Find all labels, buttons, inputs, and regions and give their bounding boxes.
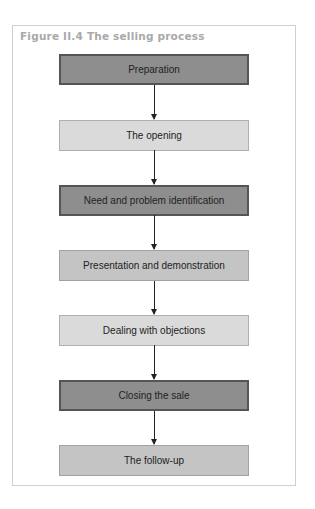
step-label: The opening [126,130,182,141]
step-label: Closing the sale [118,390,189,401]
step-closing: Closing the sale [59,380,249,411]
step-follow-up: The follow-up [59,445,249,476]
step-opening: The opening [59,120,249,151]
step-label: Presentation and demonstration [83,260,225,271]
step-need-identification: Need and problem identification [59,185,249,216]
figure-title: Figure II.4 The selling process [20,30,205,42]
step-objections: Dealing with objections [59,315,249,346]
step-presentation: Presentation and demonstration [59,250,249,281]
step-label: Dealing with objections [103,325,205,336]
step-label: The follow-up [124,455,184,466]
arrow-down-icon [154,150,155,184]
arrow-down-icon [154,281,155,314]
step-label: Need and problem identification [84,195,225,206]
step-label: Preparation [128,64,180,75]
step-preparation: Preparation [59,54,249,85]
arrow-down-icon [154,215,155,249]
arrow-down-icon [154,345,155,379]
arrow-down-icon [154,85,155,119]
arrow-down-icon [154,411,155,444]
